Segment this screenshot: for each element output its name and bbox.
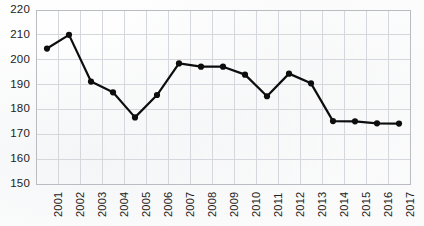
y-axis-tick-label: 170 — [0, 128, 30, 140]
data-point-marker — [132, 114, 138, 120]
x-axis-tick-label: 2017 — [404, 192, 416, 217]
data-point-markers — [44, 32, 402, 127]
x-axis-tick-label: 2002 — [74, 192, 86, 217]
data-point-marker — [154, 92, 160, 98]
x-axis-tick-label: 2009 — [228, 192, 240, 217]
data-line-series — [47, 35, 399, 124]
data-point-marker — [374, 120, 380, 126]
y-axis-tick-label: 160 — [0, 153, 30, 165]
y-axis-tick-label: 220 — [0, 4, 30, 16]
data-point-marker — [88, 78, 94, 84]
data-point-marker — [352, 118, 358, 124]
data-point-marker — [286, 71, 292, 77]
x-axis-tick-label: 2001 — [52, 192, 64, 217]
x-axis-tick-label: 2015 — [360, 192, 372, 217]
y-axis-tick-label: 180 — [0, 103, 30, 115]
data-point-marker — [110, 89, 116, 95]
data-point-marker — [264, 93, 270, 99]
data-point-marker — [242, 72, 248, 78]
x-axis-tick-label: 2004 — [118, 192, 130, 217]
y-axis-tick-label: 210 — [0, 29, 30, 41]
data-point-marker — [66, 32, 72, 38]
x-axis-tick-label: 2014 — [338, 192, 350, 217]
y-axis-tick-label: 150 — [0, 178, 30, 190]
x-axis-tick-label: 2011 — [272, 193, 284, 217]
data-point-marker — [198, 64, 204, 70]
axis-frame — [36, 10, 410, 184]
x-axis-tick-label: 2003 — [96, 192, 108, 217]
x-axis-tick-label: 2007 — [184, 192, 196, 217]
data-point-marker — [330, 118, 336, 124]
data-point-marker — [44, 45, 50, 51]
plot-frame — [36, 10, 410, 184]
data-point-marker — [308, 80, 314, 86]
data-point-marker — [220, 64, 226, 70]
x-axis-tick-label: 2010 — [250, 192, 262, 217]
x-axis-tick-label: 2012 — [294, 192, 306, 217]
grid-lines — [36, 10, 410, 184]
data-point-marker — [396, 121, 402, 127]
x-axis-tick-label: 2013 — [316, 192, 328, 217]
series-polyline — [47, 35, 399, 124]
x-axis-tick-label: 2005 — [140, 192, 152, 217]
x-axis-tick-label: 2006 — [162, 192, 174, 217]
y-axis-tick-label: 190 — [0, 79, 30, 91]
line-chart: 150160170180190200210220 200120022003200… — [0, 0, 424, 226]
y-axis-tick-label: 200 — [0, 54, 30, 66]
x-axis-tick-label: 2016 — [382, 192, 394, 217]
data-point-marker — [176, 60, 182, 66]
x-axis-tick-label: 2008 — [206, 192, 218, 217]
